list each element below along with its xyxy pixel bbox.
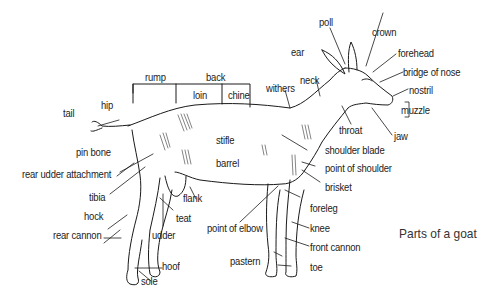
label-flank: flank [183, 192, 202, 204]
goat-diagram: poll crown ear forehead bridge of nose n… [0, 0, 489, 300]
label-poll: poll [319, 16, 333, 28]
label-hoof: hoof [162, 260, 180, 272]
label-front-cannon: front cannon [310, 241, 360, 253]
label-chine: chine [228, 89, 250, 101]
label-point-of-elbow: point of elbow [207, 222, 263, 234]
label-foreleg: foreleg [310, 202, 338, 214]
label-rear-cannon: rear cannon [53, 229, 101, 241]
label-bridge-of-nose: bridge of nose [403, 66, 460, 78]
label-crown: crown [372, 26, 396, 38]
label-ear: ear [291, 46, 304, 58]
label-muzzle: muzzle [401, 104, 430, 116]
label-forehead: forehead [398, 47, 434, 59]
label-nostril: nostril [409, 84, 433, 96]
diagram-title: Parts of a goat [399, 226, 477, 241]
label-pin-bone: pin bone [76, 146, 111, 158]
label-tibia: tibia [89, 191, 105, 203]
label-toe: toe [310, 261, 323, 273]
label-rear-udder-attachment: rear udder attachment [22, 168, 111, 180]
label-brisket: brisket [325, 181, 352, 193]
label-jaw: jaw [394, 130, 408, 142]
label-rump: rump [145, 71, 166, 83]
label-sole: sole [141, 275, 158, 287]
label-knee: knee [310, 222, 330, 234]
label-back: back [206, 71, 225, 83]
label-hip: hip [101, 99, 113, 111]
label-stifle: stifle [216, 134, 234, 146]
label-neck: neck [300, 74, 319, 86]
label-pastern: pastern [230, 255, 260, 267]
label-throat: throat [339, 124, 362, 136]
label-withers: withers [266, 82, 295, 94]
label-teat: teat [176, 212, 191, 224]
label-shoulder-blade: shoulder blade [325, 144, 384, 156]
label-barrel: barrel [216, 157, 239, 169]
label-hock: hock [84, 210, 103, 222]
label-udder: udder [152, 229, 175, 241]
label-loin: loin [193, 89, 207, 101]
label-tail: tail [63, 107, 74, 119]
label-point-of-shoulder: point of shoulder [325, 162, 392, 174]
